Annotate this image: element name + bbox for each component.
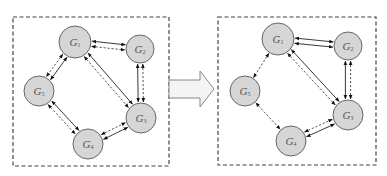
edge-g1-g2-solid: [295, 43, 333, 47]
panel-after: G1G2G3G4G5: [230, 23, 363, 156]
edge-g1-g5-dashed: [254, 53, 269, 77]
node-g3: G3: [333, 100, 363, 130]
edge-g1-g3-dashed: [84, 57, 128, 108]
edge-g1-g2-solid: [92, 41, 125, 45]
edge-g4-g3-solid: [104, 127, 128, 139]
edge-g4-g3-dashed: [305, 119, 333, 132]
edge-g2-g3-dashed: [143, 64, 144, 102]
transform-arrow-icon: [169, 71, 214, 107]
edge-g1-g5-dashed: [46, 54, 62, 76]
edge-g1-g3-solid: [88, 53, 132, 104]
node-g2: G2: [334, 32, 362, 60]
node-g1: G1: [262, 23, 294, 55]
edge-g4-g3-dashed: [101, 123, 125, 135]
panel-before: G1G2G3G4G5: [24, 26, 156, 159]
edge-g1-g2-solid: [295, 38, 333, 42]
edge-g1-g3-dashed: [288, 53, 336, 105]
node-g1: G1: [59, 26, 91, 58]
node-g4: G4: [276, 126, 306, 156]
edge-g2-g3-solid: [138, 64, 139, 102]
edge-g5-g4-dashed: [48, 105, 75, 135]
edge-g1-g5-solid: [51, 57, 67, 79]
node-g4: G4: [73, 129, 103, 159]
graph-diagram: G1G2G3G4G5 G1G2G3G4G5: [0, 0, 387, 176]
edge-g1-g3-solid: [291, 50, 339, 102]
node-g5: G5: [230, 76, 260, 106]
node-g3: G3: [126, 103, 156, 133]
edge-g1-g2-dashed: [92, 46, 125, 50]
edge-g4-g3-solid: [307, 124, 335, 137]
edge-g5-g4-dashed: [256, 103, 280, 129]
edge-g5-g4-solid: [52, 101, 79, 131]
node-g2: G2: [126, 35, 154, 63]
node-g5: G5: [24, 76, 54, 106]
